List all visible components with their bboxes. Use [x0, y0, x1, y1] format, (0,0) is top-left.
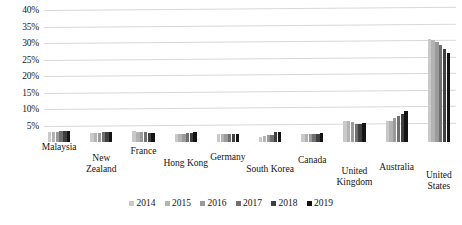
legend-item[interactable]: 2014 [129, 198, 156, 209]
bar [109, 132, 112, 142]
x-axis-category-label: United Kingdom [330, 166, 378, 187]
x-axis-category-label: Australia [373, 162, 421, 173]
bar-chart: 40%35%30%25%20%15%10%5% MalaysiaNew Zeal… [0, 0, 462, 225]
bar-group [259, 10, 281, 142]
legend-item[interactable]: 2015 [165, 198, 192, 209]
bar [151, 133, 154, 142]
y-axis-tick-label: 30% [22, 38, 39, 48]
y-axis-tick-label: 40% [22, 5, 39, 15]
plot-area [44, 10, 456, 142]
x-axis-category-label: South Korea [246, 164, 294, 175]
y-axis-tick-label: 20% [22, 71, 39, 81]
x-axis-category-labels: MalaysiaNew ZealandFranceHong KongGerman… [44, 142, 456, 190]
legend-label: 2014 [137, 198, 156, 209]
legend-label: 2015 [172, 198, 191, 209]
bar-group [90, 10, 112, 142]
bar [447, 53, 450, 142]
legend-swatch-icon [271, 201, 276, 206]
legend-item[interactable]: 2017 [236, 198, 263, 209]
bar [236, 134, 239, 142]
legend-swatch-icon [307, 201, 312, 206]
bar-group [48, 10, 70, 142]
legend-item[interactable]: 2019 [307, 198, 334, 209]
x-axis-category-label: Germany [204, 152, 252, 163]
bar [278, 132, 281, 142]
bar-group [301, 10, 323, 142]
bar-group [428, 10, 450, 142]
legend-swatch-icon [236, 201, 241, 206]
bar [362, 123, 365, 142]
bar-group [386, 10, 408, 142]
y-axis-tick-label: 10% [22, 104, 39, 114]
y-axis-labels: 40%35%30%25%20%15%10%5% [0, 10, 42, 142]
bar-group [132, 10, 154, 142]
legend-label: 2017 [243, 198, 262, 209]
x-axis-category-label: Canada [288, 155, 336, 166]
bar-group [175, 10, 197, 142]
bar [404, 111, 407, 142]
bar [67, 131, 70, 142]
y-axis-tick-label: 25% [22, 55, 39, 65]
legend-swatch-icon [129, 201, 134, 206]
x-axis-category-label: Malaysia [35, 142, 83, 153]
x-axis-category-label: Hong Kong [162, 158, 210, 169]
legend-label: 2019 [314, 198, 333, 209]
x-axis-category-label: France [120, 146, 168, 157]
bar-group [343, 10, 365, 142]
x-axis-category-label: United States [415, 170, 462, 191]
legend-label: 2016 [208, 198, 227, 209]
legend-item[interactable]: 2018 [271, 198, 298, 209]
legend-swatch-icon [165, 201, 170, 206]
y-axis-tick-label: 35% [22, 22, 39, 32]
chart-legend: 201420152016201720182019 [0, 198, 462, 209]
legend-swatch-icon [200, 201, 205, 206]
y-axis-tick-label: 5% [27, 121, 39, 131]
y-axis-tick-label: 15% [22, 88, 39, 98]
bar-groups [44, 10, 456, 142]
x-axis-category-label: New Zealand [77, 153, 125, 174]
bar [320, 133, 323, 142]
bar [193, 132, 196, 142]
bar-group [217, 10, 239, 142]
legend-label: 2018 [279, 198, 298, 209]
legend-item[interactable]: 2016 [200, 198, 227, 209]
